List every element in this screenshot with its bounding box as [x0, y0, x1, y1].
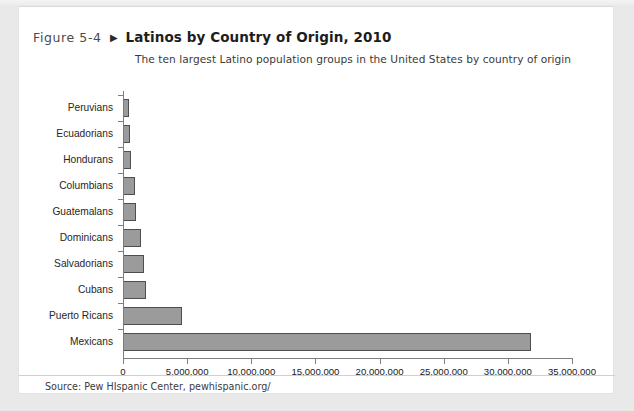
scan-artifact-top [0, 0, 634, 5]
triangle-right-icon: ▶ [110, 33, 118, 43]
category-label: Cubans [19, 277, 117, 303]
bar-row [123, 199, 572, 225]
y-axis-line [123, 91, 124, 359]
y-axis-tick [118, 329, 123, 330]
y-axis-tick [118, 303, 123, 304]
bar [123, 177, 135, 195]
source-note: Source: Pew HIspanic Center, pewhispanic… [45, 381, 271, 392]
category-label: Ecuadorians [19, 121, 117, 147]
x-axis-tick [508, 359, 509, 364]
bar-row [123, 95, 572, 121]
bar-row [123, 147, 572, 173]
bar-row [123, 251, 572, 277]
y-axis-tick [118, 277, 123, 278]
bar [123, 255, 144, 273]
bar [123, 125, 130, 143]
y-axis-tick [118, 121, 123, 122]
x-axis-tick [123, 359, 124, 364]
y-axis-tick [118, 95, 123, 96]
figure-number: Figure 5-4 [33, 30, 102, 45]
x-axis-tick [251, 359, 252, 364]
x-axis-tick [572, 359, 573, 364]
bar-row [123, 173, 572, 199]
category-axis-labels: PeruviansEcuadoriansHonduransColumbiansG… [19, 95, 117, 355]
x-axis-tick [315, 359, 316, 364]
y-axis-tick [118, 225, 123, 226]
y-axis-tick [118, 199, 123, 200]
bar-row [123, 303, 572, 329]
bar [123, 307, 182, 325]
category-label: Salvadorians [19, 251, 117, 277]
category-label: Columbians [19, 173, 117, 199]
footer-divider [19, 375, 615, 376]
figure-header: Figure 5-4 ▶ Latinos by Country of Origi… [33, 29, 603, 45]
bar-row [123, 277, 572, 303]
bar-row [123, 121, 572, 147]
bar-row [123, 225, 572, 251]
category-label: Peruvians [19, 95, 117, 121]
x-axis-tick [380, 359, 381, 364]
figure-page: Figure 5-4 ▶ Latinos by Country of Origi… [18, 6, 614, 394]
plot-area [123, 95, 572, 355]
bar [123, 333, 531, 351]
x-axis-line [123, 358, 573, 359]
category-label: Mexicans [19, 329, 117, 355]
figure-subtitle: The ten largest Latino population groups… [135, 53, 571, 65]
y-axis-tick [118, 173, 123, 174]
category-label: Puerto Ricans [19, 303, 117, 329]
bar [123, 151, 131, 169]
bar [123, 229, 141, 247]
bar [123, 281, 146, 299]
bar-chart: PeruviansEcuadoriansHonduransColumbiansG… [19, 81, 615, 359]
x-axis-tick [444, 359, 445, 364]
category-label: Guatemalans [19, 199, 117, 225]
y-axis-tick [118, 147, 123, 148]
figure-title: Latinos by Country of Origin, 2010 [126, 29, 392, 45]
category-label: Dominicans [19, 225, 117, 251]
bar [123, 203, 136, 221]
x-axis-tick [187, 359, 188, 364]
y-axis-tick [118, 251, 123, 252]
bar-row [123, 329, 572, 355]
category-label: Hondurans [19, 147, 117, 173]
